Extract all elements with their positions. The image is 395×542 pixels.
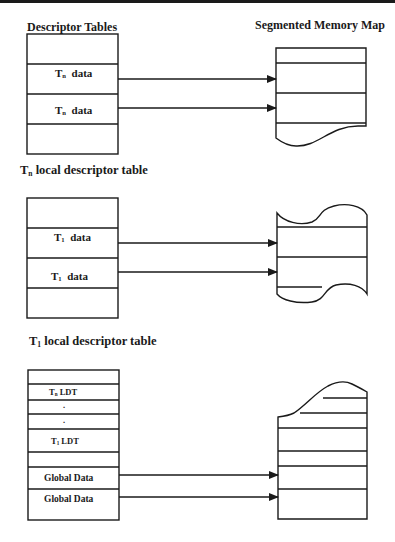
cell-global-data-1: Global Data	[44, 473, 93, 483]
descriptor-table-2	[27, 198, 118, 318]
memory-map-2	[277, 205, 367, 303]
caption-t1-ldt: T1 local descriptor table	[29, 334, 156, 349]
cell-dot-1: .	[63, 400, 65, 410]
caption-tn-ldt: Tn local descriptor table	[20, 163, 148, 178]
cell-t1-data-2: T1 data	[51, 270, 88, 282]
cell-global-data-2: Global Data	[44, 494, 93, 504]
arrows-2	[118, 243, 277, 272]
cell-dot-2: .	[63, 415, 65, 425]
cell-t1-data-1: T1 data	[54, 231, 91, 243]
cell-tn-data-1: Tn data	[55, 67, 92, 79]
arrows-3	[119, 475, 278, 497]
right-title: Segmented Memory Map	[255, 18, 385, 33]
cell-tn-data-2: Tn data	[55, 104, 92, 116]
memory-map-1	[276, 48, 366, 146]
arrows-1	[118, 79, 276, 108]
memory-map-3	[278, 382, 367, 519]
cell-tn-ldt: Tn LDT	[49, 387, 77, 397]
left-title: Descriptor Tables	[27, 20, 117, 35]
descriptor-table-1	[27, 34, 118, 154]
cell-t1-ldt: T1 LDT	[51, 436, 79, 446]
